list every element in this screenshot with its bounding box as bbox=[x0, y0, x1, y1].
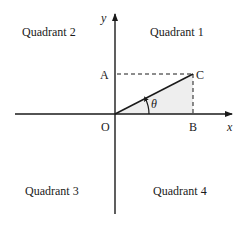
point-o-label: O bbox=[101, 120, 110, 134]
x-axis-label: x bbox=[226, 120, 233, 134]
quadrant-3-label: Quadrant 3 bbox=[25, 184, 79, 198]
quadrant-4-label: Quadrant 4 bbox=[153, 184, 207, 198]
quadrant-1-label: Quadrant 1 bbox=[150, 25, 204, 39]
point-a-label: A bbox=[100, 68, 109, 82]
quadrant-2-label: Quadrant 2 bbox=[22, 25, 76, 39]
y-axis-label: y bbox=[100, 11, 107, 25]
point-b-label: B bbox=[189, 120, 197, 134]
quadrant-diagram: Quadrant 2 Quadrant 1 Quadrant 3 Quadran… bbox=[0, 0, 247, 227]
point-c-label: C bbox=[196, 68, 204, 82]
angle-theta-label: θ bbox=[151, 97, 157, 111]
